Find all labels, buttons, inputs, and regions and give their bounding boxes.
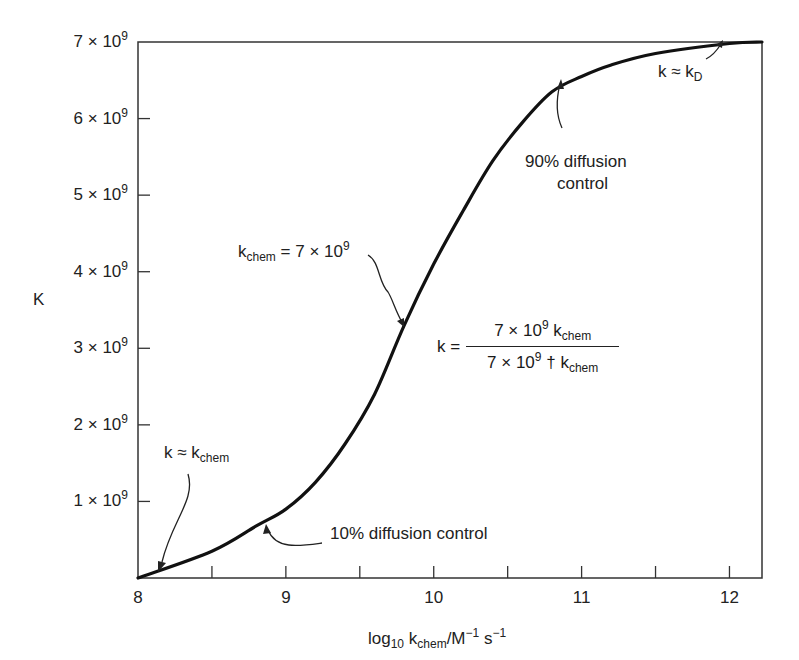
plot-frame xyxy=(138,42,762,578)
y-tick-label: 3 × 109 xyxy=(38,335,128,358)
annotation-ten-percent: 10% diffusion control xyxy=(330,524,488,544)
arrow-kchem-eq xyxy=(368,255,402,322)
num-b: k xyxy=(549,321,562,340)
formula-denominator: 7 × 109 † kchem xyxy=(487,347,598,375)
den-a: 7 × 10 xyxy=(487,353,535,372)
annotation-text: k ≈ k xyxy=(658,62,694,81)
x-label-k-sub: chem xyxy=(417,637,446,651)
x-label-log: log xyxy=(368,629,391,648)
den-sup: 9 xyxy=(535,350,542,364)
annotation-k-approx-kchem: k ≈ kchem xyxy=(164,443,229,465)
num-a: 7 × 10 xyxy=(494,321,542,340)
annotation-sub: chem xyxy=(247,250,276,264)
y-axis-label: K xyxy=(33,290,44,310)
annotation-arrows xyxy=(162,44,721,562)
formula-fraction: 7 × 109 kchem 7 × 109 † kchem xyxy=(466,318,619,375)
arrow-k-approx-kchem xyxy=(162,474,190,562)
annotation-ninety-percent-line2: control xyxy=(557,174,608,194)
x-label-k: k xyxy=(404,629,417,648)
y-tick-label: 7 × 109 xyxy=(38,29,128,52)
x-tick-label: 11 xyxy=(562,588,602,608)
x-tick-label: 9 xyxy=(266,588,306,608)
rate-formula: k = 7 × 109 kchem 7 × 109 † kchem xyxy=(437,318,619,375)
annotation-ninety-percent-line1: 90% diffusion xyxy=(525,152,627,172)
x-label-log-sub: 10 xyxy=(391,637,404,651)
annotation-k-approx-kd: k ≈ kD xyxy=(658,62,702,84)
rate-curve xyxy=(138,42,762,578)
annotation-kchem-equals: kchem = 7 × 109 xyxy=(238,239,350,264)
annotation-rest: = 7 × 10 xyxy=(276,242,343,261)
x-label-m-sup: −1 xyxy=(466,626,480,640)
x-axis-label: log10 kchem/M−1 s−1 xyxy=(368,626,506,651)
y-axis-ticks xyxy=(138,119,150,502)
num-sub: chem xyxy=(562,329,591,343)
y-tick-label: 5 × 109 xyxy=(38,182,128,205)
arrow-ninety-percent xyxy=(557,84,562,128)
chart-canvas xyxy=(0,0,799,660)
annotation-sub: chem xyxy=(200,451,229,465)
annotation-sub: D xyxy=(694,70,703,84)
y-tick-label: 2 × 109 xyxy=(38,412,128,435)
x-tick-label: 12 xyxy=(709,588,749,608)
x-label-s: s xyxy=(479,629,492,648)
den-b: † k xyxy=(542,353,569,372)
num-sup: 9 xyxy=(542,318,549,332)
formula-numerator: 7 × 109 kchem xyxy=(466,318,619,347)
x-label-unit: /M xyxy=(447,629,466,648)
arrowheads xyxy=(158,40,723,572)
x-axis-ticks xyxy=(212,566,730,578)
y-tick-label: 4 × 109 xyxy=(38,259,128,282)
annotation-sup: 9 xyxy=(343,239,350,253)
y-tick-label: 6 × 109 xyxy=(38,106,128,129)
annotation-text: k ≈ k xyxy=(164,443,200,462)
den-sub: chem xyxy=(569,361,598,375)
x-label-s-sup: −1 xyxy=(492,626,506,640)
x-tick-label: 10 xyxy=(414,588,454,608)
arrow-ten-percent xyxy=(268,530,322,545)
formula-lhs: k = xyxy=(437,337,460,357)
y-tick-label: 1 × 109 xyxy=(38,488,128,511)
annotation-text: k xyxy=(238,242,247,261)
x-tick-label: 8 xyxy=(118,588,158,608)
